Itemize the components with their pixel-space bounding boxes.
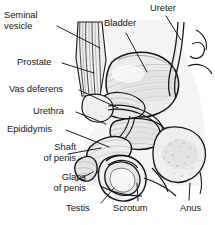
label-anus: Anus: [180, 203, 214, 214]
label-text: of penis: [14, 153, 76, 164]
label-seminal-vesicle: Seminalvesicle: [4, 10, 74, 31]
label-vas-deferens: Vas deferens: [9, 84, 89, 95]
label-bladder: Bladder: [104, 18, 156, 29]
label-text: Glans: [24, 172, 86, 183]
label-text: Ureter: [150, 3, 198, 14]
label-text: Epididymis: [7, 124, 77, 135]
label-text: Vas deferens: [9, 84, 89, 95]
label-prostate: Prostate: [17, 57, 75, 68]
label-text: Seminal: [4, 10, 74, 21]
label-ureter: Ureter: [150, 3, 198, 14]
label-scrotum: Scrotum: [113, 203, 165, 214]
peritoneum-folds: [188, 30, 212, 74]
label-epididymis: Epididymis: [7, 124, 77, 135]
anatomy-diagram: SeminalvesicleBladderUreterProstateVas d…: [0, 0, 215, 225]
label-text: Urethra: [33, 106, 88, 117]
label-urethra: Urethra: [33, 106, 88, 117]
label-text: Scrotum: [113, 203, 165, 214]
label-text: of penis: [24, 183, 86, 194]
label-text: Bladder: [104, 18, 156, 29]
label-glans-of-penis: Glansof penis: [24, 172, 86, 193]
label-shaft-of-penis: Shaftof penis: [14, 142, 76, 163]
label-text: vesicle: [4, 21, 74, 32]
label-text: Testis: [66, 203, 108, 214]
label-text: Anus: [180, 203, 214, 214]
label-text: Shaft: [14, 142, 76, 153]
label-text: Prostate: [17, 57, 75, 68]
label-testis: Testis: [66, 203, 108, 214]
